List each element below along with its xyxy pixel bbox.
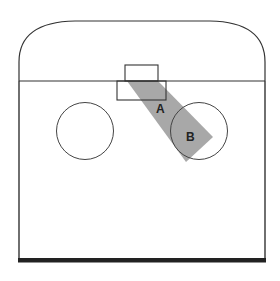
label-b: B — [186, 130, 195, 144]
small-box-top — [125, 65, 158, 81]
label-a: A — [156, 102, 165, 116]
shaded-band — [127, 81, 213, 162]
circle-left — [57, 103, 114, 160]
bottom-thick-line — [18, 258, 266, 263]
court-diagram: A B — [0, 0, 280, 281]
rounded-top-outline — [19, 21, 265, 81]
